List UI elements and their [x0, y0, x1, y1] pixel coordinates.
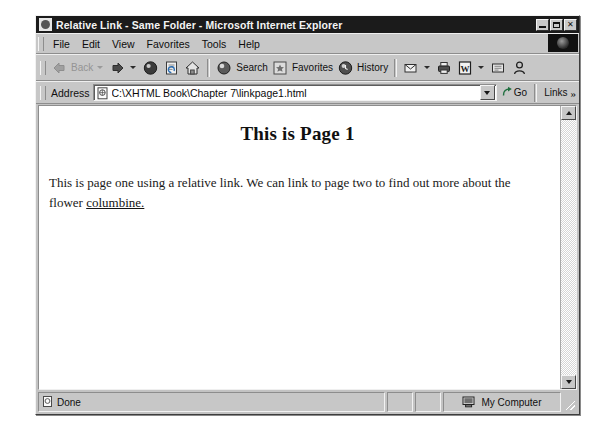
ie-document-icon [39, 18, 52, 31]
standard-toolbar: Back [36, 54, 579, 81]
page-document-icon [42, 396, 54, 408]
forward-button[interactable] [107, 57, 128, 79]
address-grip-handle[interactable] [40, 86, 46, 100]
ie-animated-logo-icon [548, 34, 578, 52]
screenshot-root: Relative Link - Same Folder - Microsoft … [0, 0, 615, 435]
messenger-button[interactable] [509, 57, 530, 79]
favorites-button-label: Favorites [292, 62, 333, 73]
refresh-icon [163, 60, 180, 76]
page-paragraph: This is page one using a relative link. … [49, 173, 546, 213]
my-computer-icon [462, 396, 474, 408]
go-arrow-icon [500, 85, 514, 101]
discuss-button[interactable] [488, 57, 509, 79]
maximize-button[interactable] [550, 19, 563, 31]
chevron-down-icon [484, 91, 490, 95]
status-message-pane: Done [38, 392, 385, 412]
refresh-button[interactable] [161, 57, 182, 79]
menu-item-help[interactable]: Help [232, 37, 266, 51]
security-zone-pane[interactable]: My Computer [443, 392, 561, 412]
vertical-scrollbar[interactable] [560, 106, 576, 389]
chevron-down-icon [566, 380, 572, 384]
toolbar-grip-handle[interactable] [40, 61, 46, 75]
menu-grip-handle[interactable] [38, 37, 44, 51]
stop-button[interactable] [140, 57, 161, 79]
minimize-button[interactable] [536, 19, 549, 31]
window-controls: ✕ [536, 19, 577, 31]
address-separator [534, 84, 537, 102]
resize-grip[interactable] [563, 392, 577, 412]
address-label: Address [49, 87, 93, 99]
discuss-icon [490, 60, 507, 76]
favorites-star-icon [272, 60, 289, 76]
title-bar[interactable]: Relative Link - Same Folder - Microsoft … [36, 16, 579, 33]
history-button[interactable]: History [335, 57, 390, 79]
mail-dropdown-caret-icon[interactable] [424, 66, 430, 69]
history-clock-icon [337, 60, 354, 76]
double-chevron-icon: » [571, 87, 577, 99]
scroll-up-button[interactable] [561, 106, 576, 120]
security-zone-label: My Computer [481, 397, 541, 408]
search-icon [216, 60, 233, 76]
toolbar-separator-1 [207, 59, 210, 77]
close-button[interactable]: ✕ [564, 19, 577, 31]
edit-with-word-button[interactable]: W [455, 57, 476, 79]
address-value: C:\XHTML Book\Chapter 7\linkpage1.html [112, 87, 480, 99]
status-text: Done [57, 397, 81, 408]
links-button[interactable]: Links » [541, 83, 579, 102]
status-extra-pane [415, 392, 441, 412]
chevron-up-icon [566, 111, 572, 115]
scroll-down-button[interactable] [561, 375, 576, 389]
browser-content-area: This is Page 1 This is page one using a … [38, 105, 577, 390]
home-button[interactable] [182, 57, 203, 79]
scrollbar-track[interactable] [561, 120, 576, 375]
menu-item-edit[interactable]: Edit [76, 37, 106, 51]
word-document-icon: W [457, 60, 474, 76]
columbine-link[interactable]: columbine. [86, 195, 144, 210]
internet-explorer-window: Relative Link - Same Folder - Microsoft … [35, 15, 580, 415]
status-progress-pane [387, 392, 413, 412]
go-button[interactable]: Go [497, 83, 530, 102]
printer-icon [436, 60, 453, 76]
web-page-body: This is Page 1 This is page one using a … [39, 106, 560, 389]
window-title: Relative Link - Same Folder - Microsoft … [56, 19, 536, 31]
person-icon [511, 60, 528, 76]
forward-dropdown-caret-icon[interactable] [130, 66, 136, 69]
home-icon [184, 60, 201, 76]
stop-icon [142, 60, 159, 76]
page-title: This is Page 1 [49, 123, 546, 145]
address-dropdown-button[interactable] [480, 85, 495, 100]
back-button-label: Back [71, 62, 93, 73]
back-dropdown-caret-icon[interactable] [97, 66, 103, 69]
menu-bar: File Edit View Favorites Tools Help [36, 33, 579, 54]
address-bar: Address C:\XHTML Book\Chapter 7\linkpage… [36, 81, 579, 104]
history-button-label: History [357, 62, 388, 73]
toolbar-separator-2 [394, 59, 397, 77]
menu-item-view[interactable]: View [106, 37, 141, 51]
print-button[interactable] [434, 57, 455, 79]
search-button[interactable]: Search [214, 57, 270, 79]
menu-item-tools[interactable]: Tools [196, 37, 233, 51]
mail-icon [403, 60, 420, 76]
svg-text:W: W [461, 63, 470, 73]
menu-item-file[interactable]: File [47, 37, 76, 51]
page-document-icon [96, 86, 110, 99]
back-button[interactable]: Back [49, 57, 95, 79]
forward-arrow-icon [109, 60, 126, 76]
go-button-label: Go [514, 87, 527, 98]
favorites-button[interactable]: Favorites [270, 57, 335, 79]
edit-dropdown-caret-icon[interactable] [478, 66, 484, 69]
status-bar: Done My Computer [38, 392, 577, 412]
back-arrow-icon [51, 60, 68, 76]
links-button-label: Links [544, 87, 567, 98]
search-button-label: Search [236, 62, 268, 73]
address-input[interactable]: C:\XHTML Book\Chapter 7\linkpage1.html [93, 84, 497, 101]
mail-button[interactable] [401, 57, 422, 79]
menu-item-favorites[interactable]: Favorites [141, 37, 196, 51]
